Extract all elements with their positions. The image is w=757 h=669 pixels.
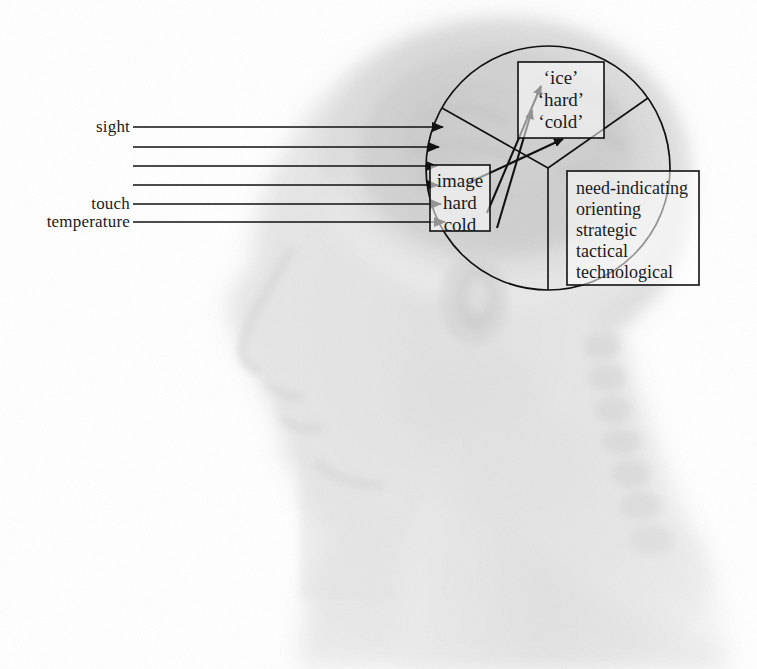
action-modes-box-text: need-indicating orienting strategic tact…: [576, 178, 700, 283]
sensory-label-temperature: temperature: [10, 212, 130, 232]
percept-quality-line-2: hard: [430, 192, 490, 214]
action-mode-line-2: orienting: [576, 199, 700, 220]
action-mode-line-4: tactical: [576, 241, 700, 262]
brain-perception-figure: sight touch temperature ‘ice’ ‘hard’ ‘co…: [0, 0, 757, 669]
action-mode-line-3: strategic: [576, 220, 700, 241]
diagram-line-art: [0, 0, 757, 669]
percept-label-line-2: ‘hard’: [518, 89, 604, 111]
percept-label-line-3: ‘cold’: [518, 111, 604, 133]
action-mode-line-5: technological: [576, 262, 700, 283]
percept-qualities-box-text: image hard cold: [430, 170, 490, 237]
sensory-input-arrows: [133, 127, 445, 222]
percept-quality-line-1: image: [430, 170, 490, 192]
sensory-label-touch: touch: [30, 194, 130, 214]
percept-labels-box-text: ‘ice’ ‘hard’ ‘cold’: [518, 67, 604, 134]
sensory-label-sight: sight: [30, 117, 130, 137]
percept-quality-line-3: cold: [430, 214, 490, 236]
action-mode-line-1: need-indicating: [576, 178, 700, 199]
percept-label-line-1: ‘ice’: [518, 67, 604, 89]
